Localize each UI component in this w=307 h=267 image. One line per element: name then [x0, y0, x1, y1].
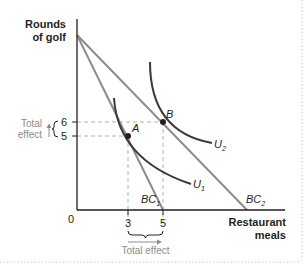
- u2-label: U2: [214, 138, 226, 152]
- bc2-label: BC2: [246, 193, 265, 207]
- y-tick-5: 5: [61, 130, 67, 142]
- u1-label: U1: [193, 178, 205, 192]
- point-a-label: A: [131, 122, 139, 134]
- point-b-label: B: [166, 108, 173, 120]
- x-axis-title-line1: Restaurant: [229, 216, 287, 228]
- indifference-curve-u2: [150, 62, 212, 143]
- origin-label: 0: [68, 213, 74, 225]
- y-axis-title-line1: Rounds: [25, 18, 66, 30]
- x-axis-title-line2: meals: [255, 229, 286, 241]
- bc1-label: BC1: [141, 193, 160, 207]
- x-brace-icon: [128, 231, 163, 238]
- point-a: [125, 133, 131, 139]
- total-effect-y-line2: effect: [18, 129, 42, 140]
- dashed-guides: [77, 122, 163, 222]
- x-tick-3: 3: [125, 217, 131, 229]
- y-axis-title-line2: of golf: [32, 31, 66, 43]
- income-effect-diagram: Rounds of golf Restaurant meals 0 6 5 3 …: [0, 0, 307, 267]
- x-tick-5: 5: [160, 217, 166, 229]
- y-brace-icon: [52, 121, 58, 137]
- total-effect-x: Total effect: [121, 245, 169, 256]
- total-effect-y-line1: Total: [21, 118, 42, 129]
- up-arrow-icon: [47, 124, 52, 138]
- y-tick-6: 6: [61, 116, 67, 128]
- right-arrow-icon: [128, 240, 162, 245]
